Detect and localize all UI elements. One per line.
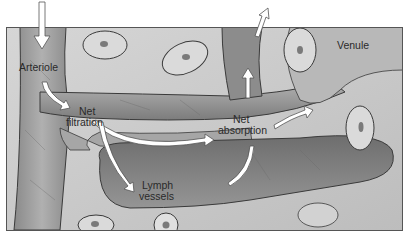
net-absorption-label-line2: absorption bbox=[218, 125, 267, 136]
net-filtration-label-line2: filtration bbox=[66, 117, 103, 128]
venule-label: Venule bbox=[337, 40, 369, 51]
tissue-cell bbox=[298, 203, 338, 227]
lymph-vessels-label-line2: vessels bbox=[139, 191, 174, 202]
diagram-artwork bbox=[0, 0, 409, 246]
capillary-bed-diagram: Arteriole Net filtration Net absorption … bbox=[0, 0, 409, 246]
venule-branch bbox=[222, 27, 262, 100]
arteriole-label: Arteriole bbox=[19, 62, 58, 73]
